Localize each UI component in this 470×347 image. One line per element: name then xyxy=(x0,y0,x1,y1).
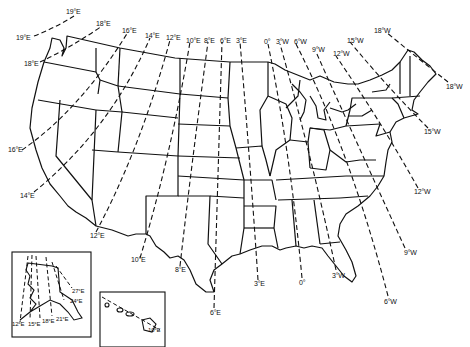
declination-label-10e-south: 10°E xyxy=(131,256,145,263)
declination-label-6w-south: 6°W xyxy=(384,298,397,305)
declination-label-8e-south: 8°E xyxy=(175,266,186,273)
declination-label-3e-south: 3°E xyxy=(254,280,265,287)
declination-label-12w-north: 12°W xyxy=(333,50,349,57)
declination-label-10e-north: 10°E xyxy=(186,37,200,44)
hawaii-isogonic-line xyxy=(102,297,160,330)
declination-label-3w-north: 3°W xyxy=(276,38,289,45)
declination-label-18e-north: 18°E xyxy=(96,20,110,27)
alaska-label-15e: 15°E xyxy=(28,321,40,327)
declination-label-6w-north: 6°W xyxy=(294,38,307,45)
declination-label-9w-south: 9°W xyxy=(404,249,417,256)
declination-label-14e-north: 14°E xyxy=(145,32,159,39)
alaska-label-21e: 21°E xyxy=(56,316,68,322)
declination-label-8e-north: 8°E xyxy=(204,37,215,44)
alaska-label-27e: 27°E xyxy=(72,288,84,294)
declination-label-12e-north: 12°E xyxy=(166,34,180,41)
declination-label-12w-south: 12°W xyxy=(414,188,430,195)
declination-label-15w-south: 15°W xyxy=(424,128,440,135)
declination-label-9w-north: 9°W xyxy=(312,46,325,53)
declination-label-6e-south: 6°E xyxy=(210,309,221,316)
alaska-label-24e: 24°E xyxy=(70,298,82,304)
declination-label-16e-north: 16°E xyxy=(122,27,136,34)
declination-label-0-south: 0° xyxy=(299,279,305,286)
declination-label-19e-west: 19°E xyxy=(16,34,30,41)
alaska-label-12e: 12°E xyxy=(12,321,24,327)
declination-label-16e-west: 16°E xyxy=(8,146,22,153)
alaska-label-18e: 18°E xyxy=(42,318,54,324)
declination-label-6e-north: 6°E xyxy=(220,37,231,44)
hawaii-inset xyxy=(100,292,165,347)
isogonic-lines xyxy=(22,16,448,308)
declination-label-18e-west: 18°E xyxy=(24,60,38,67)
declination-label-14e-south: 14°E xyxy=(20,192,34,199)
declination-label-18w-south: 18°W xyxy=(446,83,462,90)
declination-label-3w-south: 3°W xyxy=(332,272,345,279)
declination-label-19e-north: 19°E xyxy=(66,8,80,15)
declination-label-15w-north: 15°W xyxy=(347,37,363,44)
declination-label-0-north: 0° xyxy=(264,38,270,45)
declination-label-12e-south: 12°E xyxy=(90,232,104,239)
map-graphics xyxy=(0,0,470,347)
declination-map: 19°E 19°E 18°E 18°E 16°E 16°E 14°E 14°E … xyxy=(0,0,470,347)
declination-label-3e-north: 3°E xyxy=(236,37,247,44)
declination-label-18w-north: 18°W xyxy=(374,27,390,34)
hawaii-label-10e: 10°E xyxy=(148,327,160,333)
